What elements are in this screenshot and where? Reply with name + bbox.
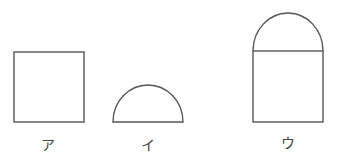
figure-u-composite xyxy=(253,13,323,122)
figure-i-semicircle xyxy=(113,85,183,122)
figure-a-square xyxy=(14,52,84,122)
figure-a-label: ア xyxy=(41,138,55,152)
figure-i-label: イ xyxy=(141,138,155,152)
figure-u-label: ウ xyxy=(281,136,295,150)
